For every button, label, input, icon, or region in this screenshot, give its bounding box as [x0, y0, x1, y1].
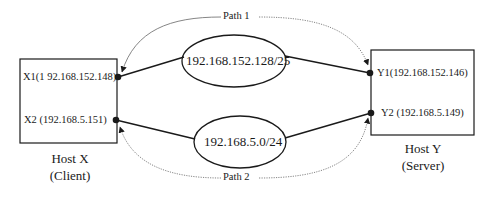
interface-dot-y2	[368, 110, 375, 117]
link-x1-net1	[118, 57, 184, 77]
network-label-1: 192.168.152.128/25	[186, 53, 290, 69]
host-y-box	[371, 50, 474, 135]
host-x-title: Host X (Client)	[30, 150, 110, 184]
interface-label-y1: Y1(192.168.152.146)	[377, 67, 468, 78]
host-y-title: Host Y (Server)	[383, 140, 463, 174]
link-net1-y1	[285, 56, 370, 73]
path2-label: Path 2	[222, 171, 251, 182]
path1-label: Path 1	[222, 10, 251, 21]
host-y-role: (Server)	[383, 157, 463, 174]
network-label-2: 192.168.5.0/24	[204, 134, 282, 150]
host-x-role: (Client)	[30, 167, 110, 184]
link-net2-y2	[285, 113, 371, 138]
interface-dot-x2	[113, 117, 120, 124]
host-y-name: Host Y	[383, 140, 463, 157]
interface-label-x2: X2 (192.168.5.151)	[24, 114, 107, 125]
interface-label-y2: Y2 (192.168.5.149)	[381, 107, 464, 118]
link-x2-net2	[116, 120, 195, 139]
interface-dot-y1	[367, 70, 374, 77]
interface-label-x1: X1(1 92.168.152.148)	[23, 71, 116, 82]
host-x-name: Host X	[30, 150, 110, 167]
